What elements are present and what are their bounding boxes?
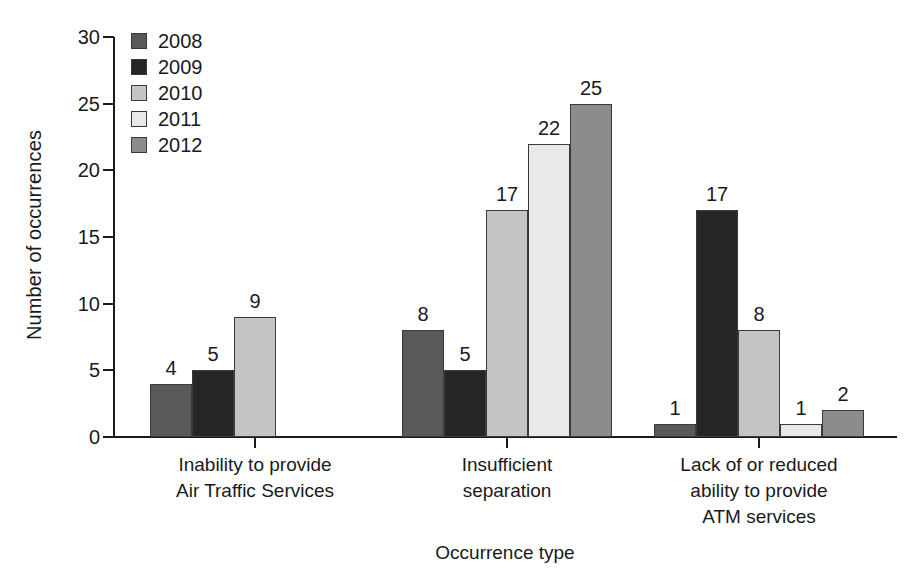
legend-item-2008[interactable]: 2008 — [131, 28, 203, 54]
legend-item-2011[interactable]: 2011 — [131, 106, 203, 132]
x-axis-title: Occurrence type — [113, 542, 897, 564]
x-axis-category-line: Lack of or reduced — [609, 452, 909, 478]
y-axis-tick-label: 0 — [52, 427, 100, 447]
bar-value-label: 22 — [514, 118, 584, 138]
bar-value-label: 9 — [220, 291, 290, 311]
y-axis-tick-label: 30 — [52, 27, 100, 47]
bar — [486, 210, 528, 437]
bar — [654, 424, 696, 437]
legend-swatch-icon — [131, 85, 147, 101]
legend-item-2012[interactable]: 2012 — [131, 132, 203, 158]
bar — [192, 370, 234, 437]
legend-item-label: 2009 — [158, 57, 203, 77]
bar — [444, 370, 486, 437]
legend-item-label: 2011 — [158, 109, 201, 129]
bar — [738, 330, 780, 437]
legend-item-label: 2012 — [158, 135, 203, 155]
legend-item-2010[interactable]: 2010 — [131, 80, 203, 106]
bar — [780, 424, 822, 437]
legend-swatch-icon — [131, 33, 147, 49]
bar — [570, 104, 612, 437]
y-axis-title: Number of occurrences — [14, 15, 54, 455]
x-axis-tick — [254, 438, 256, 448]
bar-value-label: 2 — [808, 384, 878, 404]
y-axis-tick-label: 5 — [52, 360, 100, 380]
y-axis-tick-label: 20 — [52, 160, 100, 180]
bars-layer — [113, 37, 897, 437]
legend-swatch-icon — [131, 111, 147, 127]
legend-swatch-icon — [131, 137, 147, 153]
bar-value-label: 8 — [388, 304, 458, 324]
bar-value-label: 25 — [556, 78, 626, 98]
bar-value-label: 5 — [178, 344, 248, 364]
bar-value-label: 17 — [682, 184, 752, 204]
y-axis-tick-label: 10 — [52, 294, 100, 314]
bar — [150, 384, 192, 437]
y-axis-tick-label: 25 — [52, 94, 100, 114]
bar-value-label: 8 — [724, 304, 794, 324]
x-axis-tick — [506, 438, 508, 448]
x-axis-category-label: Lack of or reducedability to provideATM … — [609, 452, 909, 530]
x-axis-tick — [758, 438, 760, 448]
bar — [234, 317, 276, 437]
x-axis-category-line: ability to provide — [609, 478, 909, 504]
legend-item-label: 2010 — [158, 83, 203, 103]
bar-chart: Number of occurrences 302520151050 45985… — [0, 0, 921, 584]
legend-item-label: 2008 — [158, 31, 203, 51]
legend-swatch-icon — [131, 59, 147, 75]
bar-value-label: 17 — [472, 184, 542, 204]
x-axis-category-line: ATM services — [609, 504, 909, 530]
bar-value-label: 5 — [430, 344, 500, 364]
y-axis-tick-label: 15 — [52, 227, 100, 247]
legend: 20082009201020112012 — [131, 28, 203, 158]
bar-value-label: 1 — [640, 398, 710, 418]
legend-item-2009[interactable]: 2009 — [131, 54, 203, 80]
